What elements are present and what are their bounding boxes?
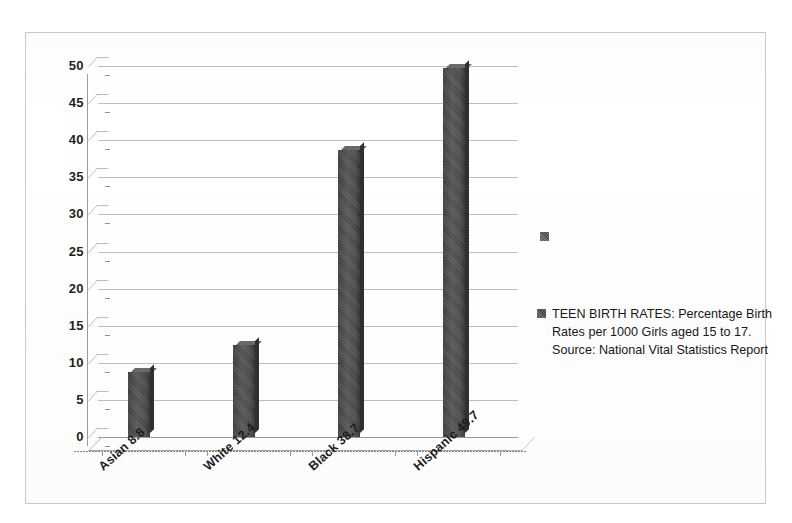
x-axis-tick-mark: [185, 451, 186, 456]
y-axis-tick-label: 20: [50, 281, 84, 296]
chart-frame: 05101520253035404550 TEEN BIRTH RATES: P…: [25, 32, 766, 504]
y-axis-tick-label: 45: [50, 95, 84, 110]
x-axis-tick-mark: [312, 451, 313, 456]
bar-side-face: [255, 337, 259, 433]
category-axis-line: [74, 451, 526, 452]
bar-side-face: [360, 142, 364, 433]
legend-swatch-icon: [537, 309, 546, 318]
bar[interactable]: [338, 150, 360, 437]
bar-side-face: [465, 60, 469, 433]
x-axis-tick-mark: [417, 451, 418, 456]
x-axis-tick-mark: [102, 451, 103, 456]
x-axis-tick-mark: [207, 451, 208, 456]
y-axis-tick-label: 50: [50, 58, 84, 73]
floor-right-edge: [508, 437, 536, 451]
y-axis-tick-labels: 05101520253035404550: [44, 33, 84, 505]
chart-legend: TEEN BIRTH RATES: Percentage Birth Rates…: [537, 305, 773, 359]
bar-side-face: [150, 364, 154, 433]
y-axis-tick-label: 40: [50, 132, 84, 147]
y-axis-tick-label: 5: [50, 392, 84, 407]
y-axis-tick-label: 30: [50, 206, 84, 221]
y-axis-tick-label: 10: [50, 355, 84, 370]
y-axis-tick-label: 0: [50, 429, 84, 444]
x-axis-tick-mark: [290, 451, 291, 456]
bar-front-face: [338, 150, 360, 437]
value-axis-line: [87, 74, 88, 446]
x-axis-tick-mark: [500, 451, 501, 456]
legend-label: TEEN BIRTH RATES: Percentage Birth Rates…: [552, 305, 773, 359]
y-axis-tick-label: 35: [50, 169, 84, 184]
y-axis-tick-label: 25: [50, 244, 84, 259]
x-axis-tick-mark: [395, 451, 396, 456]
bar[interactable]: [443, 68, 465, 437]
bar-front-face: [443, 68, 465, 437]
legend-item[interactable]: TEEN BIRTH RATES: Percentage Birth Rates…: [537, 305, 773, 359]
y-axis-tick-label: 15: [50, 318, 84, 333]
plot-area: [98, 66, 518, 437]
stray-legend-swatch-icon: [540, 232, 549, 241]
